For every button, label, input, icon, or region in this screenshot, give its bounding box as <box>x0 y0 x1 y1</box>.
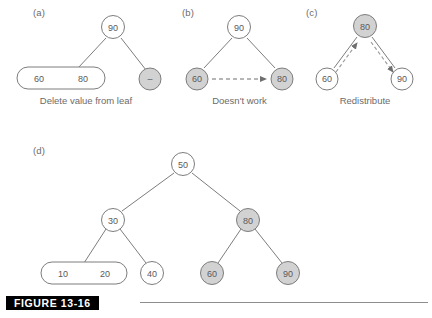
figure-13-16: (a) (b) (c) (d) 90 60 80 – <box>0 0 432 318</box>
panel-d-leaf-90-label: 90 <box>283 269 293 279</box>
panel-a-leaf-value-right: 80 <box>78 74 88 84</box>
panel-c-node-right-label: 90 <box>397 74 407 84</box>
panel-c-caption: Redistribute <box>310 95 420 106</box>
panel-d-edge-root-right <box>192 173 240 211</box>
panel-d-group: 50 30 80 10 20 40 60 90 <box>41 153 300 285</box>
figure-caption-rule <box>140 302 428 303</box>
panel-b-group: 90 60 80 <box>186 16 293 91</box>
panel-c-arrow-down <box>371 42 393 72</box>
panel-a-leaf-pill <box>17 67 105 89</box>
panel-c-edge-right <box>372 37 395 68</box>
panel-d-node-right-child-label: 80 <box>243 216 253 226</box>
panel-a-group: 90 60 80 – <box>17 16 161 91</box>
tree-diagrams: 90 60 80 – 90 60 80 80 <box>0 0 432 300</box>
panel-b-edge-right <box>247 38 275 68</box>
panel-a-edge-right <box>121 38 146 70</box>
panel-d-edge-80-right <box>255 229 282 263</box>
panel-c-node-root-label: 80 <box>360 22 370 32</box>
panel-d-edge-30-right <box>120 229 146 263</box>
panel-d-node-left-child-label: 30 <box>108 216 118 226</box>
panel-a-caption: Delete value from leaf <box>0 95 172 106</box>
panel-d-edge-30-left <box>84 229 106 263</box>
panel-d-leaf-value-10: 10 <box>58 269 68 279</box>
panel-c-group: 80 60 90 <box>316 15 413 91</box>
figure-caption-bar: FIGURE 13-16 <box>6 296 99 310</box>
panel-a-node-root-label: 90 <box>108 23 118 33</box>
panel-d-node-root-label: 50 <box>178 160 188 170</box>
panel-d-leaf-40-label: 40 <box>147 269 157 279</box>
panel-c-edge-left <box>334 37 357 68</box>
panel-b-node-root-label: 90 <box>234 23 244 33</box>
panel-b-node-right-label: 80 <box>277 74 287 84</box>
panel-a-edge-left <box>78 38 106 68</box>
panel-a-node-empty-label: – <box>147 74 152 84</box>
figure-caption-label: FIGURE 13-16 <box>14 297 91 309</box>
panel-b-node-left-label: 60 <box>192 74 202 84</box>
panel-c-node-left-label: 60 <box>322 74 332 84</box>
panel-d-edge-root-left <box>122 173 174 211</box>
panel-d-edge-80-left <box>218 229 241 263</box>
panel-b-caption: Doesn't work <box>182 95 297 106</box>
panel-d-leaf-pill <box>41 262 127 284</box>
panel-d-leaf-value-20: 20 <box>100 269 110 279</box>
panel-c-arrow-up <box>336 43 357 72</box>
panel-b-edge-left <box>204 38 232 68</box>
panel-d-leaf-60-label: 60 <box>207 269 217 279</box>
panel-a-leaf-value-left: 60 <box>34 74 44 84</box>
